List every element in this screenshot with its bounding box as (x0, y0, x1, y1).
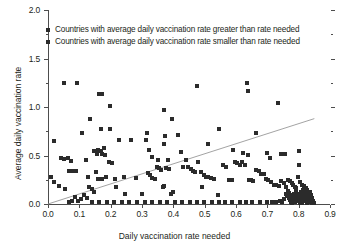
data-point (244, 200, 248, 204)
data-point (297, 163, 301, 167)
legend-marker-square-icon (46, 28, 50, 32)
data-point (212, 177, 216, 181)
data-point (62, 81, 66, 85)
data-point (202, 200, 206, 204)
data-point (129, 138, 133, 142)
data-point (84, 158, 88, 162)
data-point (296, 175, 300, 179)
x-tick (205, 205, 206, 208)
data-point (99, 127, 103, 131)
data-point (258, 200, 262, 204)
data-point (293, 200, 297, 204)
x-tick-label: 0.7 (251, 209, 283, 219)
x-tick (79, 205, 80, 208)
scatter-chart: Average daily vaccination rate Daily vac… (0, 0, 349, 245)
data-point (86, 175, 90, 179)
data-point (127, 200, 131, 204)
data-point (159, 168, 163, 172)
data-point (63, 187, 67, 191)
data-point (274, 200, 278, 204)
data-point (105, 200, 109, 204)
data-point (134, 176, 138, 180)
data-point (92, 190, 96, 194)
data-point (108, 104, 112, 108)
data-point (170, 117, 174, 121)
data-point (158, 200, 162, 204)
x-tick (111, 205, 112, 208)
y-tick-right (331, 204, 335, 205)
x-tick (267, 205, 268, 208)
data-point (102, 146, 106, 150)
y-tick-label: 2.0 (6, 5, 40, 15)
y-minor-tick-right (331, 83, 333, 84)
data-point (283, 152, 287, 156)
y-minor-tick-right (331, 131, 333, 132)
data-point (251, 179, 255, 183)
data-point (112, 200, 116, 204)
data-point (238, 200, 242, 204)
data-point (57, 184, 61, 188)
data-point (210, 200, 214, 204)
data-point (193, 170, 197, 174)
data-point (262, 172, 266, 176)
x-tick (142, 205, 143, 208)
data-point (241, 151, 245, 155)
data-point (231, 148, 235, 152)
data-point (312, 201, 316, 205)
data-point (230, 200, 234, 204)
x-tick-label: 0.1 (63, 209, 95, 219)
data-point (179, 150, 183, 154)
data-point (120, 200, 124, 204)
data-point (110, 161, 114, 165)
data-point (114, 185, 118, 189)
data-point (113, 177, 117, 181)
data-point (163, 134, 167, 138)
legend-label: Countries with average daily vaccination… (55, 25, 299, 34)
x-tick-label: 0.8 (283, 209, 315, 219)
x-tick-label: 0.2 (95, 209, 127, 219)
data-point (94, 170, 98, 174)
data-point (250, 200, 254, 204)
x-axis-line (48, 204, 330, 205)
y-tick-label: 1.0 (6, 102, 40, 112)
legend-item[interactable]: Countries with average daily vaccination… (46, 24, 300, 35)
data-point (217, 200, 221, 204)
y-tick-label: 1.5 (6, 54, 40, 64)
data-point (206, 142, 210, 146)
data-point (140, 192, 144, 196)
data-point (268, 156, 272, 160)
data-point (103, 153, 107, 157)
y-tick-right (331, 10, 335, 11)
data-point (224, 165, 228, 169)
data-point (184, 158, 188, 162)
x-tick-label: 0.6 (220, 209, 252, 219)
data-point (144, 138, 148, 142)
data-point (162, 184, 166, 188)
data-point (173, 200, 177, 204)
y-tick (44, 204, 48, 205)
data-point (100, 92, 104, 96)
x-tick (236, 205, 237, 208)
y-tick-right (331, 156, 335, 157)
data-point (282, 197, 286, 201)
legend-item[interactable]: Countries with average daily vaccination… (46, 36, 300, 47)
data-point (162, 108, 166, 112)
data-point (153, 177, 157, 181)
data-point (80, 131, 84, 135)
data-point (49, 175, 53, 179)
data-point (143, 200, 147, 204)
x-tick-label: 0.3 (126, 209, 158, 219)
x-tick-label: 0.0 (32, 209, 64, 219)
data-point (122, 175, 126, 179)
data-point (147, 148, 151, 152)
data-point (156, 158, 160, 162)
data-point (196, 160, 200, 164)
data-point (90, 200, 94, 204)
x-tick (48, 205, 49, 208)
x-tick-label: 0.9 (314, 209, 346, 219)
data-point (180, 200, 184, 204)
legend-marker-square-icon (46, 40, 50, 44)
y-minor-tick-right (331, 34, 333, 35)
data-point (171, 190, 175, 194)
data-point (97, 200, 101, 204)
